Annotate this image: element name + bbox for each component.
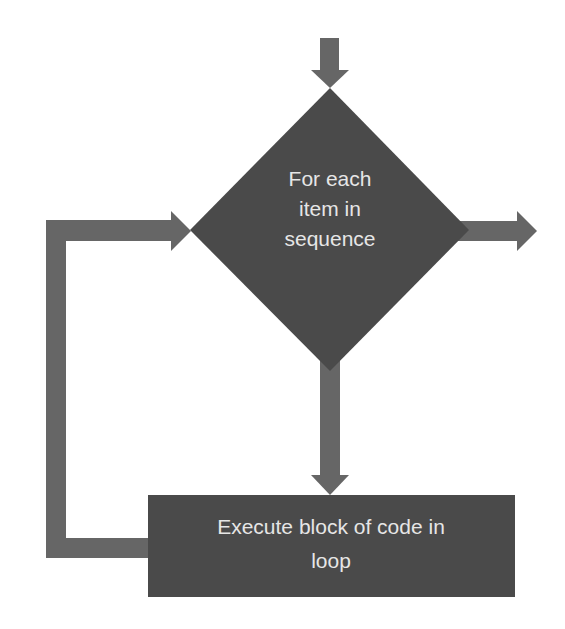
process-label: Execute block of code in loop <box>148 510 514 578</box>
process-label-line: Execute block of code in <box>148 510 514 544</box>
decision-label-line: sequence <box>250 224 410 254</box>
decision-label-line: item in <box>250 194 410 224</box>
decision-label: For each item in sequence <box>250 164 410 254</box>
entry-arrow <box>311 38 349 88</box>
process-label-line: loop <box>148 544 514 578</box>
decision-label-line: For each <box>250 164 410 194</box>
decision-to-process-arrow <box>311 360 349 495</box>
